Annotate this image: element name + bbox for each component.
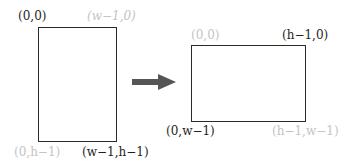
arrow-right-icon: [130, 72, 178, 92]
source-image-rect: [38, 27, 117, 142]
target-label-bottom-left: (0,w−1): [166, 124, 215, 138]
source-label-bottom-right: (w−1,h−1): [82, 145, 149, 159]
target-image-rect: [191, 45, 306, 122]
target-label-bottom-right: (h−1,w−1): [272, 124, 339, 138]
target-label-top-right: (h−1,0): [282, 28, 328, 42]
source-label-top-left: (0,0): [18, 9, 46, 23]
source-label-bottom-left: (0,h−1): [14, 145, 60, 159]
source-label-top-right: (w−1,0): [87, 9, 136, 23]
target-label-top-left: (0,0): [191, 28, 219, 42]
